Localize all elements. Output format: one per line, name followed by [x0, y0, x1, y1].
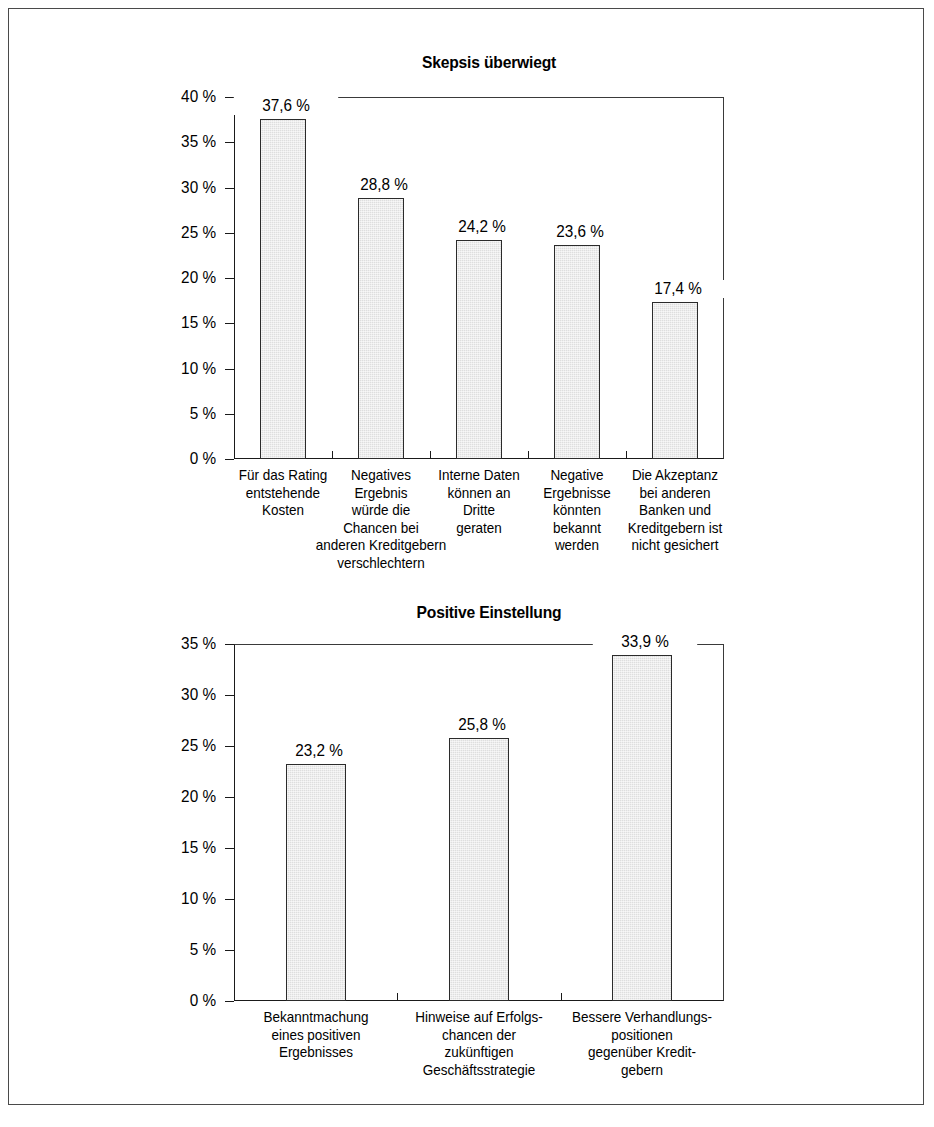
y-axis-tick — [225, 644, 234, 645]
y-axis-tick — [225, 746, 234, 747]
x-axis-tick — [397, 993, 398, 1001]
y-axis-label: 5 % — [160, 941, 216, 958]
x-axis-category-label: Bessere Verhandlungs-positionengegenüber… — [562, 1009, 722, 1079]
y-axis-tick — [225, 797, 234, 798]
y-axis-label: 35 % — [160, 635, 216, 652]
y-axis-tick — [225, 142, 234, 143]
bar-value-label: 37,6 % — [234, 97, 338, 115]
y-axis-label: 15 % — [160, 839, 216, 856]
y-axis-label: 20 % — [160, 269, 216, 286]
y-axis-tick — [225, 950, 234, 951]
chart-title-2: Positive Einstellung — [305, 603, 673, 623]
y-axis-tick — [225, 414, 234, 415]
x-axis-tick — [528, 451, 529, 459]
y-axis-label: 40 % — [160, 88, 216, 105]
bar — [554, 245, 600, 459]
y-axis-tick — [225, 323, 234, 324]
chart-title-1: Skepsis überwiegt — [305, 53, 673, 73]
page-frame: Skepsis überwiegt 40 %35 %30 %25 %20 %15… — [8, 8, 924, 1105]
bar — [286, 764, 346, 1001]
y-axis-label: 25 % — [160, 224, 216, 241]
y-axis-label: 0 % — [160, 450, 216, 467]
y-axis-tick — [225, 97, 234, 98]
x-axis-tick — [332, 451, 333, 459]
x-axis-category-label: Bekanntmachungeines positivenErgebnisses — [236, 1009, 396, 1062]
x-axis-tick — [561, 993, 562, 1001]
bar-value-label: 24,2 % — [430, 218, 534, 236]
x-axis-category-label: Die Akzeptanzbei anderenBanken undKredit… — [605, 467, 745, 555]
y-axis-label: 5 % — [160, 405, 216, 422]
bar-value-label: 25,8 % — [430, 716, 534, 734]
bar — [652, 302, 698, 459]
bar — [612, 655, 672, 1001]
y-axis-tick — [225, 459, 234, 460]
y-axis-label: 35 % — [160, 133, 216, 150]
x-axis-tick — [626, 451, 627, 459]
y-axis-label: 10 % — [160, 890, 216, 907]
y-axis-tick — [225, 848, 234, 849]
y-axis-label: 20 % — [160, 788, 216, 805]
y-axis-tick — [225, 369, 234, 370]
bar — [449, 738, 509, 1001]
bar-value-label: 23,2 % — [266, 742, 370, 760]
y-axis-label: 0 % — [160, 992, 216, 1009]
y-axis-tick — [225, 188, 234, 189]
x-axis-tick — [430, 451, 431, 459]
y-axis-label: 30 % — [160, 179, 216, 196]
bar-value-label: 17,4 % — [626, 280, 730, 298]
y-axis-tick — [225, 899, 234, 900]
bar-value-label: 23,6 % — [528, 223, 632, 241]
y-axis-label: 30 % — [160, 686, 216, 703]
y-axis-tick — [225, 278, 234, 279]
y-axis-label: 10 % — [160, 360, 216, 377]
y-axis-label: 15 % — [160, 314, 216, 331]
y-axis-tick — [225, 233, 234, 234]
y-axis-label: 25 % — [160, 737, 216, 754]
bar-value-label: 33,9 % — [593, 633, 697, 651]
x-axis-category-label: Hinweise auf Erfolgs-chancen derzukünfti… — [399, 1009, 559, 1079]
bar — [260, 119, 306, 459]
bar — [358, 198, 404, 459]
y-axis-tick — [225, 695, 234, 696]
bar-value-label: 28,8 % — [332, 176, 436, 194]
bar — [456, 240, 502, 459]
y-axis-tick — [225, 1001, 234, 1002]
